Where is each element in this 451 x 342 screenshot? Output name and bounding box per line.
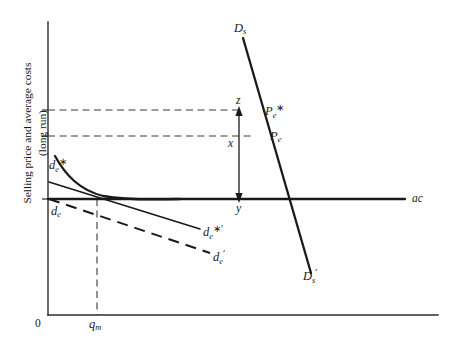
economics-diagram: Selling price and average costs (long ru… [0, 0, 451, 342]
label-market-demand: Ds [234, 22, 246, 37]
y-axis-title: Selling price and average costs (long ru… [20, 28, 50, 238]
de-sub: e [57, 210, 61, 219]
pes-sup: ∗ [276, 102, 284, 113]
x-segment-arrow [235, 106, 242, 203]
pe-sub: e [278, 135, 282, 144]
label-point-z: z [236, 95, 240, 107]
y-axis-title-line1: Selling price and average costs [20, 28, 35, 238]
label-price-star: Pe∗ [265, 103, 284, 120]
label-perceived-demand-star: de∗ [49, 157, 67, 174]
desp-sup: ∗′ [213, 223, 223, 234]
arrow-head-up [235, 106, 242, 116]
label-perceived-demand-star-prime: de∗′ [203, 224, 223, 241]
market-demand-curve [243, 38, 311, 273]
qm-sub: m [95, 323, 101, 332]
label-point-y: y [236, 203, 241, 215]
y-axis-title-line2: (long run) [35, 28, 50, 238]
label-segment-x: x [228, 138, 233, 150]
label-market-demand-shifted: Ds′ [303, 268, 317, 285]
des-sup: ∗ [59, 156, 67, 167]
label-perceived-demand: de [51, 205, 61, 220]
guide-lines-group [48, 110, 253, 315]
origin-label: 0 [35, 318, 41, 330]
x-tick-label-qm: qm [89, 318, 101, 333]
perceived-demand-star-prime-curve [49, 182, 200, 229]
diagram-canvas [0, 0, 451, 342]
dsp-prime: ′ [315, 267, 317, 278]
pes-base: P [265, 104, 273, 118]
perceived-demand-star-curve [55, 156, 180, 200]
dsp-base: D [303, 269, 312, 283]
label-price: Pe [270, 130, 281, 145]
dep-sup: ′ [223, 248, 225, 259]
ds-sub: s [243, 27, 246, 36]
ds-base: D [234, 21, 243, 35]
label-average-cost: ac [412, 193, 423, 205]
pe-base: P [270, 129, 278, 143]
label-perceived-demand-prime: de′ [213, 249, 225, 266]
axes-group [42, 22, 438, 315]
